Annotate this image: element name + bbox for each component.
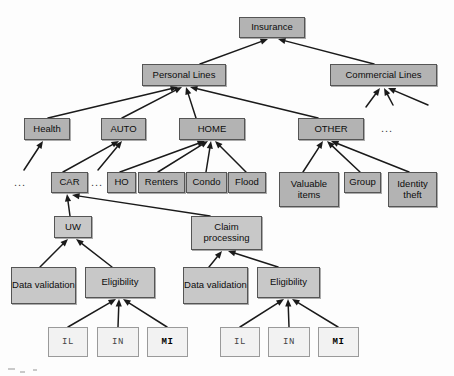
edge-claim-to-car — [72, 193, 210, 216]
node-label: Flood — [235, 177, 259, 188]
node-health[interactable]: Health — [24, 118, 70, 140]
node-identity[interactable]: Identity theft — [388, 172, 437, 207]
edge-car-to-auto — [63, 141, 119, 172]
node-il-left[interactable]: IL — [48, 327, 88, 357]
node-in-right[interactable]: IN — [268, 327, 310, 357]
node-label: IL — [234, 337, 246, 347]
scan-artifact-2 — [33, 369, 37, 371]
edge-dv-right-to-claim — [209, 251, 222, 267]
node-commercial[interactable]: Commercial Lines — [330, 64, 437, 86]
node-personal[interactable]: Personal Lines — [142, 64, 226, 86]
node-label: IN — [112, 337, 124, 347]
node-label: IL — [62, 337, 74, 347]
node-label: Eligibility — [270, 277, 307, 288]
node-insurance[interactable]: Insurance — [239, 17, 305, 38]
edge-uw-to-car — [65, 194, 71, 216]
edge-auto-to-personal — [122, 87, 182, 118]
scan-artifact-0 — [8, 368, 15, 370]
node-label: Renters — [145, 177, 178, 188]
node-label: AUTO — [110, 124, 136, 135]
edge-dv-left-to-uw — [40, 239, 68, 267]
node-dv-left[interactable]: Data validation — [11, 267, 76, 304]
edge-other-to-personal — [190, 86, 318, 118]
edge-mi-left-to-elig-left — [123, 299, 167, 327]
ellipsis-other: ... — [381, 122, 393, 134]
node-renters[interactable]: Renters — [138, 172, 185, 193]
node-elig-left[interactable]: Eligibility — [85, 267, 155, 298]
edge-home-to-personal — [185, 87, 196, 118]
edge-renters-to-home — [158, 141, 208, 172]
node-label: Personal Lines — [153, 70, 216, 81]
node-ho[interactable]: HO — [107, 172, 136, 193]
node-label: Insurance — [251, 22, 293, 33]
node-uw[interactable]: UW — [54, 216, 92, 238]
node-other[interactable]: OTHER — [298, 118, 364, 140]
node-label: Eligibility — [102, 277, 139, 288]
edge-in-left-to-elig-left — [116, 299, 122, 327]
node-valuable[interactable]: Valuable items — [279, 172, 339, 207]
node-label: Condo — [193, 177, 221, 188]
node-label: HOME — [198, 124, 227, 135]
node-label: Data validation — [12, 280, 75, 291]
edge-flood-to-home — [215, 141, 246, 172]
edge-comm-a-to-commercial — [366, 88, 380, 107]
node-label: Group — [349, 177, 375, 188]
edge-commercial-to-insurance — [278, 38, 374, 64]
node-label: Identity theft — [389, 179, 436, 200]
node-elig-right[interactable]: Eligibility — [257, 267, 320, 298]
node-il-right[interactable]: IL — [220, 327, 260, 357]
edge-valuable-to-other — [303, 141, 323, 172]
edge-comm-c-to-commercial — [388, 88, 428, 105]
node-label: CAR — [59, 177, 79, 188]
node-label: MI — [162, 337, 174, 347]
edge-personal-to-insurance — [200, 39, 268, 64]
node-condo[interactable]: Condo — [186, 172, 227, 193]
node-dv-right[interactable]: Data validation — [183, 267, 248, 304]
node-label: Claim processing — [192, 222, 261, 243]
edge-elig-right-to-claim — [228, 250, 278, 267]
node-car[interactable]: CAR — [51, 172, 88, 193]
node-label: IN — [283, 337, 295, 347]
edge-ho-to-home — [120, 141, 205, 172]
node-label: Commercial Lines — [345, 70, 421, 81]
node-in-left[interactable]: IN — [97, 327, 139, 357]
node-mi-left[interactable]: MI — [147, 327, 188, 357]
edge-health-to-personal — [48, 86, 178, 118]
scan-artifact-1 — [20, 371, 25, 373]
node-label: HO — [114, 177, 128, 188]
node-label: Valuable items — [280, 179, 338, 200]
node-flood[interactable]: Flood — [228, 172, 266, 193]
node-label: UW — [65, 222, 81, 233]
diagram-canvas: InsurancePersonal LinesCommercial LinesH… — [0, 0, 454, 376]
node-label: MI — [333, 337, 345, 347]
node-label: OTHER — [314, 124, 347, 135]
node-auto[interactable]: AUTO — [101, 118, 146, 140]
node-group[interactable]: Group — [344, 172, 381, 193]
node-claim[interactable]: Claim processing — [191, 216, 262, 250]
ellipsis-car: ... — [91, 176, 103, 188]
ellipsis-health: ... — [14, 176, 26, 188]
edge-dots-left-to-health — [24, 141, 43, 170]
edge-condo-to-home — [206, 141, 213, 172]
node-label: Data validation — [184, 280, 247, 291]
edge-in-right-to-elig-right — [285, 299, 291, 327]
edge-mi-right-to-elig-right — [292, 299, 338, 327]
node-label: Health — [33, 124, 60, 135]
node-home[interactable]: HOME — [179, 118, 245, 140]
node-mi-right[interactable]: MI — [318, 327, 359, 357]
edge-elig-left-to-uw — [76, 239, 112, 267]
